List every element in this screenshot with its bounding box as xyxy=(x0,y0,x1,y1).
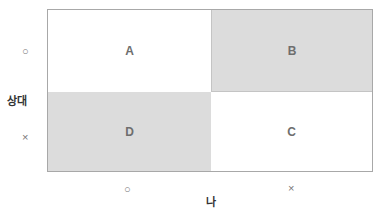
y-tick-no: × xyxy=(22,131,28,143)
x-tick-no: × xyxy=(288,182,294,194)
cell-d-label: D xyxy=(125,125,134,139)
cell-b: B xyxy=(211,10,372,92)
cell-c-label: C xyxy=(287,125,296,139)
cell-c: C xyxy=(211,92,372,171)
x-tick-yes: ○ xyxy=(124,183,131,195)
cell-b-label: B xyxy=(288,44,297,58)
x-axis-title: 나 xyxy=(206,193,216,209)
cell-d: D xyxy=(48,92,211,171)
cell-a-label: A xyxy=(125,44,134,58)
y-axis-title: 상대 xyxy=(7,92,27,108)
cell-a: A xyxy=(48,10,211,92)
y-tick-yes: ○ xyxy=(22,45,29,57)
payoff-matrix: A B D C xyxy=(47,9,373,172)
